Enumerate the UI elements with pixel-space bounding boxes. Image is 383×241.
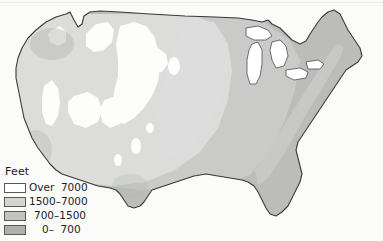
legend-label-0-700: 0– 700 [42, 224, 81, 235]
legend-label-700-1500: 700–1500 [34, 210, 86, 221]
shading-southwest [20, 130, 52, 170]
sangre-de-cristo-over-7000 [131, 138, 141, 154]
shading-appalachia [314, 90, 346, 150]
legend-swatch-over-7000 [4, 183, 26, 193]
legend-row: Over 7000 [4, 181, 116, 194]
legend: Feet Over 7000 1500–7000 700–1500 0– 700 [4, 165, 116, 237]
map-figure: Feet Over 7000 1500–7000 700–1500 0– 700 [0, 0, 383, 241]
legend-label-1500-7000: 1500–7000 [29, 196, 88, 207]
legend-row: 700–1500 [4, 209, 116, 222]
shading-texas [112, 174, 148, 198]
legend-title: Feet [5, 165, 116, 178]
legend-label-over-7000: Over 7000 [29, 182, 88, 193]
legend-swatch-1500-7000 [4, 197, 26, 207]
shading-northwest [30, 28, 74, 60]
legend-swatch-700-1500 [4, 211, 26, 221]
black-hills-over-7000 [168, 57, 180, 75]
legend-swatch-0-700 [4, 225, 26, 235]
legend-row: 1500–7000 [4, 195, 116, 208]
plateau-speck [146, 123, 154, 133]
legend-row: 0– 700 [4, 223, 116, 236]
